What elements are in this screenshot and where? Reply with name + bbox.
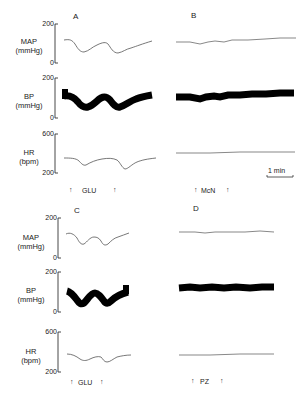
trace-bp-c-end [123,285,129,294]
ylabel-hr-c: HR (bpm) [8,347,54,365]
agent-label-d: PZ [200,378,209,386]
arrow-end-d: ↑ [220,377,224,385]
panel-label-b: B [191,12,196,20]
panel-label-a: A [73,13,78,21]
trace-bp-a [64,95,152,107]
ylabel-hr-a: HR (bpm) [6,148,52,166]
axis-map-c [58,218,61,258]
trace-map-d [179,231,274,233]
agent-label-b: McN [201,187,215,195]
tick-bp-c-max: 200 [37,268,57,276]
scale-bar-line [267,175,293,177]
arrow-start-c: ↑ [70,378,74,386]
tick-bp-a-max: 200 [34,74,54,82]
arrow-start-b: ↑ [194,186,198,194]
axis-bp-c [58,272,61,312]
axis-hr-a [55,134,58,173]
arrow-end-b: ↑ [226,186,230,194]
trace-map-a [64,40,152,53]
trace-bp-c [67,291,128,304]
trace-hr-d [179,354,274,355]
axis-hr-c [58,332,61,372]
trace-bp-b [176,93,294,99]
tick-hr-c-min: 200 [37,368,57,376]
trace-map-c [66,233,129,245]
axis-bp-a [55,78,58,118]
tick-map-a-max: 200 [34,20,54,28]
trace-hr-a [64,158,156,169]
tick-map-c-min: 0 [37,254,57,262]
tick-hr-c-max: 600 [37,328,57,336]
arrow-start-d: ↑ [191,377,195,385]
trace-bp-a-start [62,89,68,99]
trace-map-b [176,38,296,44]
ylabel-map-a: MAP (mmHg) [6,37,52,55]
tick-bp-c-min: 0 [37,308,57,316]
ylabel-bp-a: BP (mmHg) [6,92,52,110]
tick-hr-a-min: 200 [34,169,54,177]
ylabel-bp-c: BP (mmHg) [8,286,54,304]
panel-label-d: D [193,205,199,213]
agent-label-a: GLU [82,187,96,195]
arrow-start-a: ↑ [69,186,73,194]
scale-bar-label: 1 min [268,167,285,175]
axis-map-a [55,24,58,63]
arrow-end-c: ↑ [100,378,104,386]
tick-hr-a-max: 600 [34,130,54,138]
trace-hr-c [67,354,131,362]
agent-label-c: GLU [78,379,92,387]
tick-map-a-min: 0 [34,59,54,67]
trace-hr-b [176,152,295,153]
trace-bp-d [179,287,274,288]
panel-label-c: C [74,207,80,215]
ylabel-map-c: MAP (mmHg) [8,233,54,251]
arrow-end-a: ↑ [113,186,117,194]
tick-map-c-max: 200 [37,214,57,222]
tick-bp-a-min: 0 [34,114,54,122]
